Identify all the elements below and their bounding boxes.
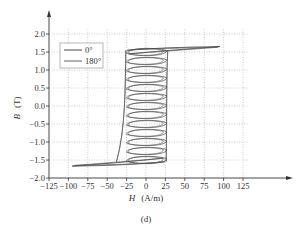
y-tick-label: 0.0 bbox=[34, 101, 45, 111]
y-tick-label: 0.5 bbox=[34, 83, 45, 93]
lower-saturation-branch bbox=[75, 158, 165, 165]
legend-label-0deg: 0° bbox=[85, 45, 93, 55]
y-tick-label: −1.0 bbox=[30, 137, 45, 147]
y-tick-label: −1.5 bbox=[30, 155, 45, 165]
y-axis-title: B (T) bbox=[6, 97, 23, 120]
axes bbox=[47, 10, 293, 180]
y-tick-labels: 2.01.51.00.50.0−0.5−1.0−1.5−2.0 bbox=[30, 29, 49, 183]
x-tick-label: −100 bbox=[60, 181, 78, 191]
x-axis-arrow-icon bbox=[286, 176, 293, 180]
y-tick-label: 2.0 bbox=[34, 29, 45, 39]
x-tick-label: −75 bbox=[81, 181, 94, 191]
x-tick-label: 50 bbox=[181, 181, 190, 191]
x-tick-label: 75 bbox=[200, 181, 209, 191]
x-tick-label: −50 bbox=[101, 181, 114, 191]
x-tick-label: 100 bbox=[217, 181, 230, 191]
x-axis-symbol: H bbox=[128, 193, 136, 203]
figure-caption: (d) bbox=[141, 214, 152, 224]
x-tick-label: 25 bbox=[161, 181, 170, 191]
y-axis-unit: (T) bbox=[12, 97, 22, 109]
x-tick-label: −125 bbox=[40, 181, 58, 191]
y-tick-label: −0.5 bbox=[30, 119, 45, 129]
y-tick-label: 1.0 bbox=[34, 65, 45, 75]
x-axis-unit: (A/m) bbox=[141, 193, 163, 203]
upper-saturation-branch bbox=[127, 47, 217, 53]
y-axis-arrow-icon bbox=[47, 10, 51, 17]
y-tick-label: 1.5 bbox=[34, 47, 45, 57]
x-tick-label: 125 bbox=[237, 181, 250, 191]
hysteresis-chart: 2.01.51.00.50.0−0.5−1.0−1.5−2.0 −125−100… bbox=[0, 0, 303, 232]
x-tick-labels: −125−100−75−50−250255075100125 bbox=[40, 178, 249, 191]
x-tick-label: 0 bbox=[144, 181, 148, 191]
left-envelope bbox=[117, 50, 126, 162]
x-tick-label: −25 bbox=[120, 181, 133, 191]
y-axis-symbol: B bbox=[12, 114, 22, 120]
svg-text:B (T): B (T) bbox=[6, 97, 23, 120]
legend: 0° 180° bbox=[60, 43, 103, 68]
legend-label-180deg: 180° bbox=[85, 56, 101, 66]
